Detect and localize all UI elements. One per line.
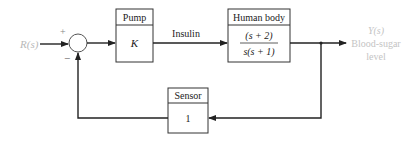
sensor-block: Sensor 1 <box>168 88 208 133</box>
output-symbol: Y(s) <box>368 25 385 37</box>
transfer-denominator: s(s + 1) <box>243 46 275 58</box>
output-label: Y(s) Blood-sugar level <box>351 25 401 62</box>
plus-sign: + <box>60 26 66 37</box>
sensor-title: Sensor <box>174 90 202 101</box>
human-body-block: Human body (s + 2) s(s + 1) <box>228 9 290 62</box>
pump-gain: K <box>130 37 139 49</box>
minus-sign: − <box>64 52 70 64</box>
sensor-gain: 1 <box>186 113 191 124</box>
human-body-title: Human body <box>233 12 285 23</box>
insulin-label: Insulin <box>172 28 200 39</box>
output-line1: Blood-sugar <box>351 38 401 49</box>
transfer-numerator: (s + 2) <box>245 30 273 42</box>
output-line2: level <box>366 51 386 62</box>
block-diagram: R(s) + − Pump K Insulin Human body (s + … <box>0 0 418 141</box>
input-label: R(s) <box>19 38 39 51</box>
pump-title: Pump <box>123 12 146 23</box>
summing-junction <box>69 34 87 52</box>
feedback-to-junction <box>78 53 168 118</box>
pump-block: Pump K <box>116 9 153 62</box>
